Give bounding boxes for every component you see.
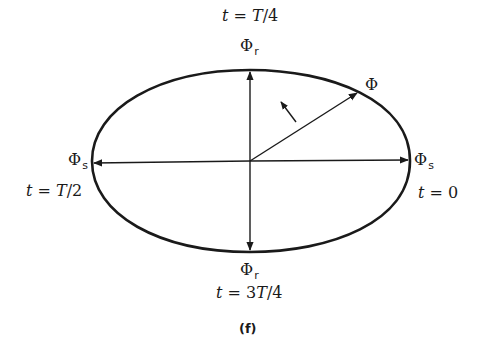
caption-text: (f) — [239, 321, 257, 336]
subscript: s — [82, 159, 88, 172]
phi-s-right-arrow — [250, 160, 408, 161]
equals-text: = 0 — [424, 183, 458, 202]
phi-symbol: Φ — [414, 150, 427, 169]
equals-text: = — [228, 6, 252, 25]
period-symbol: T — [56, 181, 67, 200]
phi-symbol: Φ — [365, 75, 378, 94]
label-left-time: t = T/2 — [26, 183, 82, 199]
equals-text: = 3 — [222, 283, 256, 302]
label-bottom-phi-r: Φr — [240, 262, 259, 278]
phi-vector-arrow — [250, 93, 357, 161]
phi-s-left-arrow — [94, 161, 250, 163]
fraction-text: /4 — [263, 6, 279, 25]
rotation-direction-arrow — [281, 102, 296, 122]
subscript: s — [428, 159, 434, 172]
phi-symbol: Φ — [68, 150, 81, 169]
figure-caption: (f) — [239, 322, 257, 335]
label-top-time: t = T/4 — [222, 8, 278, 24]
label-right-phi-s: Φs — [414, 152, 434, 168]
equals-text: = — [32, 181, 56, 200]
period-symbol: T — [252, 6, 263, 25]
subscript: r — [254, 45, 259, 58]
subscript: r — [254, 269, 259, 282]
period-symbol: T — [256, 283, 267, 302]
label-rotating-phi: Φ — [365, 77, 378, 93]
label-left-phi-s: Φs — [68, 152, 88, 168]
phi-symbol: Φ — [240, 260, 253, 279]
label-top-phi-r: Φr — [240, 38, 259, 54]
phi-symbol: Φ — [240, 36, 253, 55]
label-bottom-time: t = 3T/4 — [216, 285, 282, 301]
label-right-time: t = 0 — [418, 185, 458, 201]
fraction-text: /2 — [67, 181, 83, 200]
fraction-text: /4 — [267, 283, 283, 302]
